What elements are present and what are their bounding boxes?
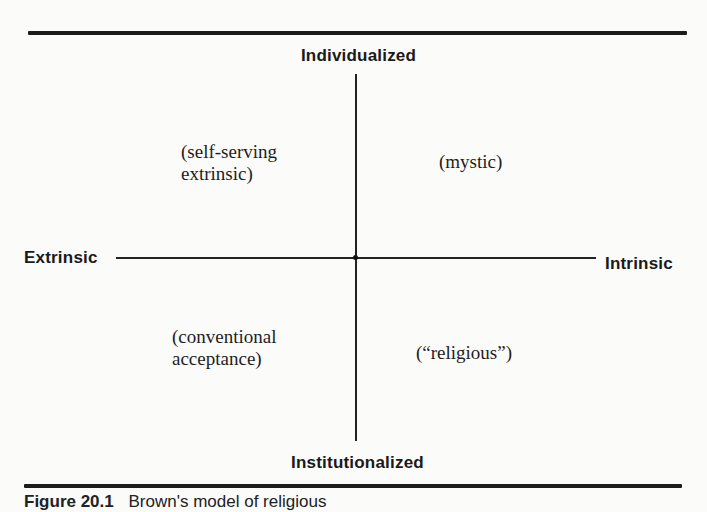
quadrant-label-line: acceptance) [172, 348, 276, 370]
axis-label-intrinsic: Intrinsic [605, 254, 673, 274]
origin-point [353, 255, 358, 260]
quadrant-label-line: (conventional [172, 326, 276, 348]
quadrant-label-line: (“religious”) [416, 342, 512, 364]
caption-text: Brown's model of religious [129, 492, 327, 511]
quadrant-label-line: extrinsic) [181, 163, 277, 185]
figure-caption: Figure 20.1 Brown's model of religious [24, 492, 326, 512]
axis-label-individualized: Individualized [0, 46, 707, 66]
quadrant-label-conventional-acceptance: (conventional acceptance) [172, 326, 276, 370]
quadrant-label-mystic: (mystic) [439, 151, 502, 173]
axis-label-extrinsic: Extrinsic [24, 248, 98, 268]
quadrant-label-self-serving-extrinsic: (self-serving extrinsic) [181, 141, 277, 185]
figure-number: Figure 20.1 [24, 492, 114, 511]
axis-label-institutionalized: Institutionalized [0, 453, 707, 473]
bottom-rule [24, 484, 682, 488]
quadrant-label-religious: (“religious”) [416, 342, 512, 364]
quadrant-label-line: (mystic) [439, 151, 502, 173]
quadrant-label-line: (self-serving [181, 141, 277, 163]
top-rule [28, 31, 687, 35]
